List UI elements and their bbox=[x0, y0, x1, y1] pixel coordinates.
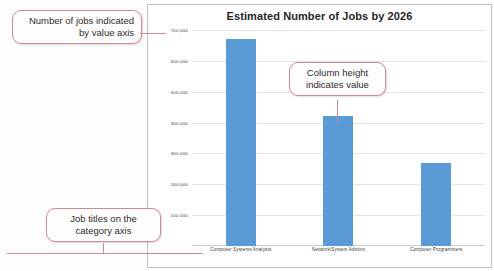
callout-value-axis-leader-line bbox=[140, 33, 166, 34]
category-axis-label: Computer Programmers bbox=[387, 247, 485, 252]
bar-slot bbox=[192, 30, 290, 246]
bar[interactable] bbox=[421, 163, 451, 246]
bar-slot bbox=[387, 30, 485, 246]
value-axis-tick-label: 200,000 bbox=[171, 182, 188, 187]
value-axis-tick-label: 400,000 bbox=[171, 120, 188, 125]
value-axis-tick-label: 300,000 bbox=[171, 151, 188, 156]
bar[interactable] bbox=[226, 39, 256, 246]
callout-column-height: Column height indicates value bbox=[289, 62, 386, 96]
callout-category-axis-leader-segment-2 bbox=[103, 253, 203, 254]
callout-column-height-leader-line bbox=[337, 100, 338, 122]
category-axis: Computer Systems AnalystsNetwork/System … bbox=[192, 247, 485, 259]
category-axis-label: Computer Systems Analysts bbox=[192, 247, 290, 252]
callout-category-axis: Job titles on the category axis bbox=[46, 208, 161, 242]
callout-category-axis-leader-segment-3 bbox=[7, 253, 104, 254]
value-axis-tick-label: 500,000 bbox=[171, 89, 188, 94]
chart-container[interactable]: Estimated Number of Jobs by 2026 700,000… bbox=[147, 4, 492, 268]
chart-title: Estimated Number of Jobs by 2026 bbox=[148, 10, 491, 22]
bar[interactable] bbox=[323, 116, 353, 246]
page-root: Estimated Number of Jobs by 2026 700,000… bbox=[0, 0, 494, 271]
category-axis-label: Network/System Admins bbox=[290, 247, 388, 252]
callout-value-axis: Number of jobs indicated by value axis bbox=[12, 10, 142, 44]
value-axis-tick-label: 600,000 bbox=[171, 58, 188, 63]
value-axis-tick-label: 700,000 bbox=[171, 28, 188, 33]
value-axis-tick-label: 100,000 bbox=[171, 213, 188, 218]
